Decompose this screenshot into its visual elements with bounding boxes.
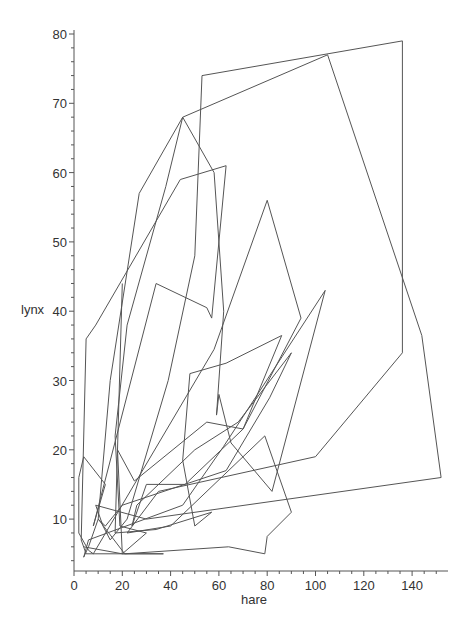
y-tick-label: 80 [53,27,67,42]
y-tick-label: 50 [53,235,67,250]
x-tick-label: 60 [212,578,226,593]
data-series [79,41,441,557]
y-axis: 1020304050607080 [53,27,74,571]
y-tick-label: 10 [53,512,67,527]
x-tick-label: 100 [305,578,327,593]
x-tick-label: 120 [353,578,375,593]
x-tick-label: 0 [70,578,77,593]
y-tick-label: 40 [53,304,67,319]
x-tick-label: 40 [163,578,177,593]
x-tick-label: 20 [115,578,129,593]
y-tick-label: 60 [53,166,67,181]
x-tick-label: 80 [260,578,274,593]
y-tick-label: 70 [53,96,67,111]
x-axis: 020406080100120140 [70,571,448,593]
lynx-hare-trajectory [79,41,441,557]
x-tick-label: 140 [401,578,423,593]
y-tick-label: 30 [53,374,67,389]
x-axis-label: hare [241,592,267,607]
phase-plot-chart: 1020304050607080 020406080100120140 lynx… [0,0,468,627]
y-tick-label: 20 [53,443,67,458]
y-axis-label: lynx [21,302,45,317]
